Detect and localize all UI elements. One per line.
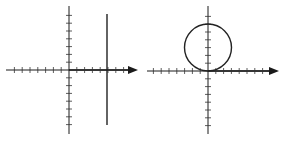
left-graph-panel <box>0 0 142 142</box>
right-coordinate-plane <box>140 0 285 142</box>
x-axis-arrow-icon <box>269 67 279 75</box>
left-coordinate-plane <box>0 0 142 142</box>
x-axis-arrow-icon <box>128 66 138 74</box>
right-graph-panel <box>140 0 282 142</box>
